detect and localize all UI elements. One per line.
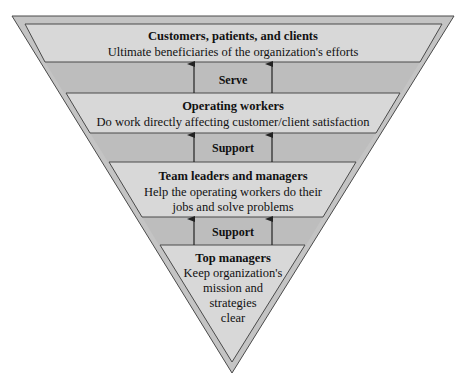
tier-desc-operating-workers: Do work directly affecting customer/clie…	[97, 115, 371, 129]
tier-title-customers: Customers, patients, and clients	[148, 29, 318, 43]
tier-desc-top-managers-line1: Keep organization's	[184, 266, 283, 280]
tier-title-team-leaders: Team leaders and managers	[158, 169, 307, 183]
tier-desc-team-leaders-line1: Help the operating workers do their	[144, 185, 323, 199]
tier-title-top-managers: Top managers	[195, 251, 271, 265]
tier-desc-top-managers-line2: mission and	[203, 281, 264, 295]
connector-label-support-2: Support	[212, 225, 254, 239]
tier-desc-top-managers-line3: strategies	[209, 296, 256, 310]
connector-label-serve: Serve	[219, 73, 248, 87]
tier-title-operating-workers: Operating workers	[182, 99, 284, 113]
connector-label-support-1: Support	[212, 141, 254, 155]
inverted-pyramid-diagram: Serve Support Support Customers, patient…	[0, 0, 461, 383]
tier-desc-top-managers-line4: clear	[221, 311, 246, 325]
tier-desc-customers: Ultimate beneficiaries of the organizati…	[108, 45, 359, 59]
tier-desc-team-leaders-line2: jobs and solve problems	[171, 200, 293, 214]
